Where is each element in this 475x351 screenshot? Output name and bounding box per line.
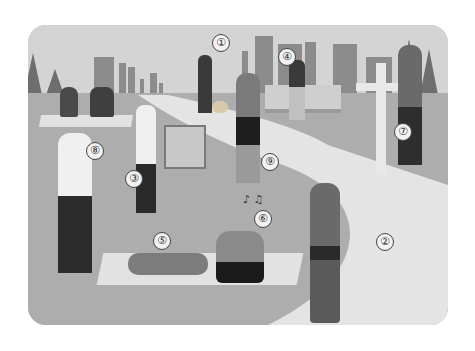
label-7: ⑦ [394, 123, 412, 141]
label-6: ⑥ [254, 210, 272, 228]
dog [212, 101, 228, 113]
fountain-top [356, 83, 404, 91]
label-8: ⑧ [86, 142, 104, 160]
person-drinking [398, 45, 422, 165]
person-sitting-2 [90, 87, 114, 117]
person-jogging [310, 183, 340, 323]
label-1: ① [212, 34, 230, 52]
park-illustration: ♪ ♫ ① ② ③ ④ ⑤ ⑥ ⑦ ⑧ ⑨ [28, 25, 448, 325]
person-phone [236, 73, 260, 183]
label-3: ③ [125, 170, 143, 188]
person-dog-walker [198, 55, 212, 113]
label-9: ⑨ [261, 153, 279, 171]
label-5: ⑤ [153, 232, 171, 250]
music-notes-icon: ♪ ♫ [243, 193, 263, 206]
person-lying [128, 253, 208, 275]
label-4: ④ [278, 48, 296, 66]
water-fountain [376, 63, 386, 173]
person-reading [289, 60, 305, 120]
person-sitting-1 [60, 87, 78, 117]
easel [164, 125, 206, 169]
label-2: ② [376, 233, 394, 251]
picnic-mat [39, 115, 133, 127]
person-meditating [216, 231, 264, 283]
person-painter [136, 105, 156, 213]
